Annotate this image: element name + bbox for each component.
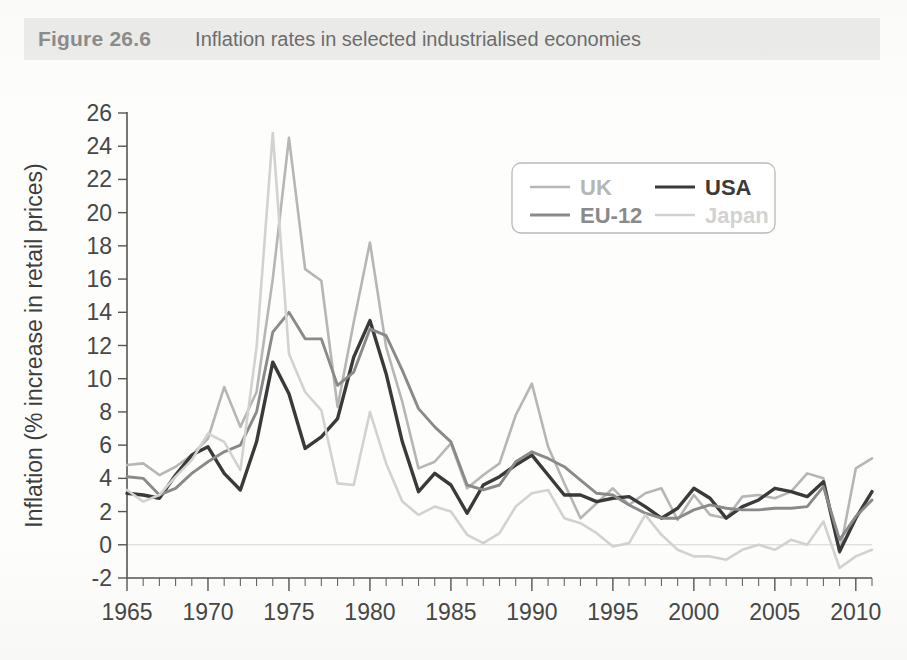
inflation-line-chart: -202468101214161820222426 19651970197519…: [0, 60, 907, 660]
x-tick-label: 1970: [182, 599, 233, 625]
x-tick-label: 1985: [425, 599, 476, 625]
x-tick-label: 1990: [506, 599, 557, 625]
x-tick-label: 1980: [344, 599, 395, 625]
y-tick-label: 12: [86, 333, 112, 359]
series-line-usa: [127, 321, 872, 552]
y-tick-label: 22: [86, 166, 112, 192]
y-tick-label: 26: [86, 100, 112, 126]
x-axis-tick-labels: 1965197019751980198519901995200020052010: [101, 599, 881, 625]
y-tick-label: 14: [86, 299, 112, 325]
y-tick-label: 6: [99, 432, 112, 458]
legend-label-uk: UK: [580, 175, 612, 200]
figure-header-bar: Figure 26.6 Inflation rates in selected …: [24, 18, 880, 60]
y-tick-label: 4: [99, 465, 112, 491]
x-tick-label: 1975: [263, 599, 314, 625]
y-tick-label: 20: [86, 200, 112, 226]
figure-root: Figure 26.6 Inflation rates in selected …: [0, 0, 907, 660]
y-tick-label: 2: [99, 499, 112, 525]
figure-caption: Inflation rates in selected industrialis…: [195, 28, 641, 51]
y-axis-tick-labels: -202468101214161820222426: [86, 100, 112, 591]
x-tick-label: 1965: [101, 599, 152, 625]
x-tick-label: 2010: [830, 599, 881, 625]
legend-label-eu-12: EU-12: [580, 203, 642, 228]
y-axis-label: Inflation (% increase in retail prices): [21, 163, 47, 527]
legend-label-japan: Japan: [705, 203, 769, 228]
x-tick-label: 2005: [749, 599, 800, 625]
y-tick-label: 18: [86, 233, 112, 259]
y-tick-label: 16: [86, 266, 112, 292]
legend-label-usa: USA: [705, 175, 752, 200]
y-tick-label: 0: [99, 532, 112, 558]
x-tick-label: 1995: [587, 599, 638, 625]
figure-number: Figure 26.6: [38, 27, 151, 51]
chart-plot-area: -202468101214161820222426 19651970197519…: [0, 60, 907, 660]
y-tick-label: -2: [92, 565, 112, 591]
x-tick-label: 2000: [668, 599, 719, 625]
y-axis-title: Inflation (% increase in retail prices): [21, 163, 47, 527]
chart-legend[interactable]: UKUSAEU-12Japan: [512, 163, 775, 233]
y-tick-label: 10: [86, 366, 112, 392]
y-tick-label: 24: [86, 133, 112, 159]
y-tick-label: 8: [99, 399, 112, 425]
